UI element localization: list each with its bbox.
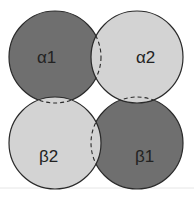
beta2-circle [9,97,101,189]
beta2-label: β2 [39,147,58,166]
alpha1-label: α1 [37,48,56,67]
subunit-diagram: α1 α2 β2 β1 [0,0,194,201]
alpha2-label: α2 [136,48,155,67]
beta1-label: β1 [135,147,154,166]
beta1-circle [91,97,183,189]
